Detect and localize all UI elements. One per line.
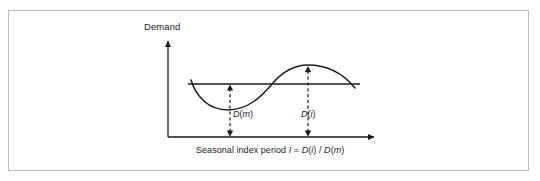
- di-arrowhead-bottom: [305, 131, 311, 137]
- di-arrowhead-top: [305, 66, 311, 72]
- dm-annotation-label: D(m): [233, 110, 253, 119]
- dm-arrowhead-top: [227, 84, 233, 90]
- figure-caption: Seasonal index period I = D(i) / D(m): [196, 146, 344, 155]
- demand-curve: [191, 65, 355, 110]
- caption-equals: =: [291, 145, 301, 155]
- di-close-paren: ): [313, 109, 316, 119]
- dm-close-paren: ): [250, 109, 253, 119]
- dm-arg: m: [243, 109, 251, 119]
- caption-prefix: Seasonal index period: [196, 145, 289, 155]
- dm-arrowhead-bottom: [227, 131, 233, 137]
- di-annotation-label: D(i): [301, 110, 316, 119]
- figure-root: Demand D(m) D(i) Seasonal index period I…: [0, 0, 540, 181]
- caption-divider: /: [316, 145, 324, 155]
- caption-den-close-paren: ): [341, 145, 344, 155]
- y-axis-label: Demand: [144, 22, 181, 32]
